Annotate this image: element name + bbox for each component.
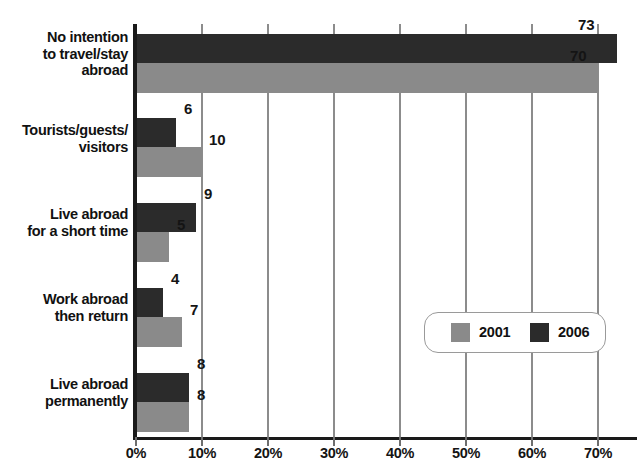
legend-entry-2001: 2001 (451, 323, 510, 342)
legend: 2001 2006 (424, 312, 606, 353)
legend-entry-2006: 2006 (530, 323, 589, 342)
bar-2001-work-abroad (136, 317, 182, 347)
plot-area (136, 24, 643, 438)
bar-2001-short-time (136, 232, 169, 262)
category-label-tourists: Tourists/guests/ visitors (0, 122, 128, 155)
x-tick-label-50: 50% (452, 446, 480, 461)
bar-2006-work-abroad (136, 288, 163, 317)
bar-2006-permanently (136, 373, 189, 402)
value-label-2001-permanently: 8 (197, 387, 205, 402)
x-tick-label-10: 10% (188, 446, 216, 461)
value-label-2001-work-abroad: 7 (190, 302, 198, 317)
y-axis-line (133, 24, 137, 440)
category-label-permanently: Live abroad permanently (0, 376, 128, 409)
value-label-2001-no-intention: 70 (570, 48, 586, 63)
value-label-2006-no-intention: 73 (578, 17, 594, 32)
bar-2006-tourists (136, 118, 176, 147)
category-label-no-intention: No intention to travel/stay abroad (0, 29, 128, 79)
bar-2001-tourists (136, 147, 202, 177)
x-tick-label-0: 0% (126, 446, 146, 461)
value-label-2006-permanently: 8 (197, 356, 205, 371)
category-label-work-abroad: Work abroad then return (0, 291, 128, 324)
value-label-2006-short-time: 9 (204, 186, 212, 201)
x-tick-label-60: 60% (518, 446, 546, 461)
x-axis-line (133, 437, 637, 440)
legend-swatch-2001 (451, 323, 470, 342)
legend-label-2006: 2006 (558, 325, 589, 340)
x-tick-label-30: 30% (320, 446, 348, 461)
legend-label-2001: 2001 (479, 325, 510, 340)
bar-2006-short-time (136, 203, 196, 232)
bar-2001-no-intention (136, 63, 598, 93)
x-tick-label-40: 40% (386, 446, 414, 461)
value-label-2006-tourists: 6 (184, 101, 192, 116)
legend-swatch-2006 (530, 323, 549, 342)
category-label-short-time: Live abroad for a short time (0, 206, 128, 239)
value-label-2001-short-time: 5 (177, 217, 185, 232)
bar-2001-permanently (136, 402, 189, 432)
x-tick-label-70: 70% (584, 446, 612, 461)
value-label-2001-tourists: 10 (209, 132, 225, 147)
x-tick-label-20: 20% (254, 446, 282, 461)
bar-2006-no-intention (136, 34, 617, 63)
value-label-2006-work-abroad: 4 (171, 271, 179, 286)
bar-chart: 73 70 6 10 9 5 4 7 8 8 No intention to t… (0, 0, 643, 466)
